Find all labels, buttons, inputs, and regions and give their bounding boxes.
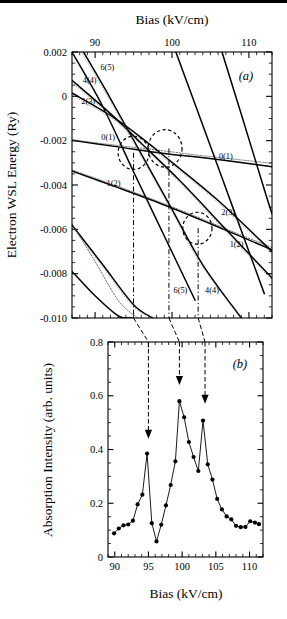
panel-b-x-tick-label: 105 (208, 561, 224, 572)
panel-a-y-tick-label: -0.008 (40, 268, 67, 279)
panel-b: Bias (kV/cm) Absorption Intensity (arb. … (40, 337, 263, 601)
panel-b-x-tick-label: 110 (242, 561, 257, 572)
panel-b-data-point (150, 521, 154, 525)
panel-b-label: (b) (233, 357, 248, 371)
panel-b-arrow-head (145, 430, 152, 439)
panel-b-y-tick-label: 0.2 (90, 498, 103, 509)
panel-a-curve-label: 4(4) (83, 76, 97, 85)
page-top-rule (0, 0, 287, 3)
panel-b-data-point (136, 502, 140, 506)
panel-a-y-tick-label: -0.010 (40, 313, 67, 324)
panel-b-data-point (206, 462, 210, 466)
panel-a-curve-label: 2(3) (81, 97, 95, 106)
panel-b-y-tick-label: 0.4 (90, 444, 104, 455)
panel-b-y-tick-label: 0.8 (90, 337, 103, 348)
panel-a-x-tick-label: 90 (90, 37, 101, 48)
anticrossing-circle (183, 212, 212, 244)
panel-a-vertical-markers (134, 148, 199, 318)
panel-b-data-point (182, 415, 186, 419)
panel-b-data-points (112, 399, 261, 543)
panel-b-data-point (229, 517, 233, 521)
panel-a-curve (72, 140, 272, 164)
panel-b-x-tick-label: 90 (109, 561, 120, 572)
panel-b-y-tick-label: 0.6 (90, 390, 103, 401)
panel-a-x-axis-title: Bias (kV/cm) (135, 12, 208, 27)
panel-b-line (114, 401, 259, 541)
panel-b-data-point (257, 522, 261, 526)
panel-b-arrow-head (176, 376, 183, 385)
panel-b-data-point (253, 521, 257, 525)
panel-b-data-point (196, 469, 200, 473)
panel-b-data-point (164, 503, 168, 507)
panel-b-data-point (173, 459, 177, 463)
panel-a-curve-ghost (81, 52, 241, 318)
panel-b-data-point (243, 525, 247, 529)
panel-a-curve-label: 0(1) (101, 133, 115, 142)
panel-b-x-tick-label: 100 (174, 561, 190, 572)
panel-a-y-ticks: 0.0020-0.002-0.004-0.006-0.008-0.010 (40, 47, 272, 324)
panel-b-x-axis-title: Bias (kV/cm) (149, 586, 222, 601)
panel-b-data-point (154, 539, 158, 543)
panel-b-data-point (117, 526, 121, 530)
panel-b-x-ticks: 9095100105110 (108, 342, 263, 572)
panel-b-data-point (191, 455, 195, 459)
panel-b-data-point (177, 399, 181, 403)
panel-a-label: (a) (239, 69, 254, 83)
panel-a-y-tick-label: -0.006 (40, 224, 67, 235)
panel-b-data-point (169, 483, 173, 487)
panel-a-curve-label: 6(5) (174, 286, 188, 295)
panel-a-curve-label: 4(4) (205, 286, 219, 295)
panel-b-data-series (114, 401, 259, 541)
panel-b-peak-arrows (145, 342, 209, 439)
cross-panel-connector (169, 318, 180, 342)
panel-a-curves (72, 52, 272, 318)
panel-b-y-tick-label: 0 (98, 552, 103, 563)
panel-a-curve-label: 1(2) (230, 240, 244, 249)
panel-b-data-point (121, 523, 125, 527)
panel-a-y-tick-label: 0 (62, 91, 67, 102)
panel-b-data-point (112, 531, 116, 535)
panel-b-data-point (187, 440, 191, 444)
panel-b-data-point (215, 497, 219, 501)
panel-a-frame (72, 52, 272, 318)
panel-b-frame (108, 342, 263, 557)
panel-a-y-tick-label: -0.004 (40, 180, 68, 191)
figure-container: Bias (kV/cm) Electron WSL Energy (Ry) (a… (0, 0, 287, 619)
anticrossing-circle (148, 130, 182, 168)
panel-b-data-point (201, 418, 205, 422)
panel-a-curve-label: 6(5) (100, 63, 114, 72)
panel-b-data-point (210, 478, 214, 482)
panel-a-y-axis-title: Electron WSL Energy (Ry) (4, 112, 19, 259)
cross-panel-connector (134, 318, 149, 342)
panel-b-data-point (126, 522, 130, 526)
panel-a-curve-label: 1(2) (107, 179, 121, 188)
panel-b-data-point (131, 519, 135, 523)
panel-a-y-tick-label: 0.002 (43, 47, 67, 58)
panel-a-y-tick-label: -0.002 (40, 135, 67, 146)
panel-a-x-tick-label: 100 (164, 37, 180, 48)
panel-b-data-point (234, 524, 238, 528)
panel-b-data-point (140, 493, 144, 497)
cross-panel-connector (198, 318, 205, 342)
panel-a-curve-labels: 6(5)4(4)2(3)0(1)0(1)1(2)2(3)1(2)6(5)4(4) (81, 63, 244, 295)
panel-b-data-point (248, 519, 252, 523)
panel-b-data-point (239, 525, 243, 529)
panel-b-data-point (220, 507, 224, 511)
panel-a-x-tick-label: 110 (241, 37, 256, 48)
panel-b-x-tick-label: 95 (143, 561, 154, 572)
panel-b-y-axis-title: Absorption Intensity (arb. units) (40, 363, 55, 537)
panel-a-curve (72, 225, 153, 318)
panel-b-data-point (225, 514, 229, 518)
panel-connector-lines (134, 318, 206, 342)
panel-a-curve-label: 0(1) (219, 152, 233, 161)
panel-b-arrow-head (201, 395, 208, 404)
panel-a: Bias (kV/cm) Electron WSL Energy (Ry) (a… (4, 12, 272, 324)
panel-a-curve (176, 52, 264, 294)
panel-b-data-point (159, 523, 163, 527)
scientific-figure: Bias (kV/cm) Electron WSL Energy (Ry) (a… (0, 0, 287, 619)
panel-b-data-point (145, 451, 149, 455)
panel-a-curve-label: 2(3) (221, 208, 235, 217)
